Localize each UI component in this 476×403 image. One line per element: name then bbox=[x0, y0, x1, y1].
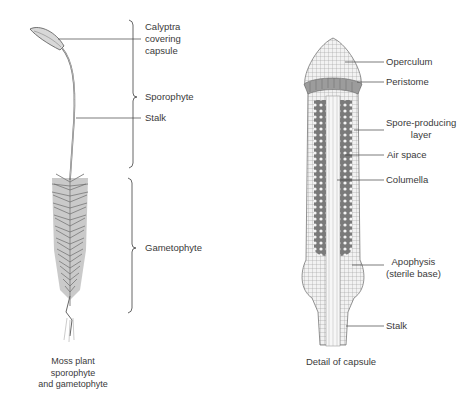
caption-line3: and gametophyte bbox=[28, 379, 118, 391]
label-calyptra-line2: covering bbox=[145, 33, 181, 45]
caption-line2: sporophyte bbox=[28, 368, 118, 380]
label-peristome: Peristome bbox=[386, 76, 429, 88]
caption-capsule: Detail of capsule bbox=[296, 356, 386, 368]
label-apophysis: Apophysis (sterile base) bbox=[386, 256, 441, 280]
label-spore-producing-layer: Spore-producing layer bbox=[386, 117, 456, 141]
label-stalk-left: Stalk bbox=[145, 112, 166, 124]
moss-plant-drawing bbox=[30, 20, 141, 342]
label-calyptra: Calyptra covering capsule bbox=[145, 21, 181, 57]
label-spore-line2: layer bbox=[386, 129, 456, 141]
caption-moss-plant: Moss plant sporophyte and gametophyte bbox=[28, 356, 118, 391]
label-calyptra-line1: Calyptra bbox=[145, 21, 181, 33]
label-operculum: Operculum bbox=[386, 56, 432, 68]
label-air-space: Air space bbox=[387, 149, 427, 161]
label-calyptra-line3: capsule bbox=[145, 45, 181, 57]
label-apophysis-line1: Apophysis bbox=[386, 256, 441, 268]
label-stalk-right: Stalk bbox=[386, 320, 407, 332]
caption-line1: Moss plant bbox=[28, 356, 118, 368]
label-gametophyte: Gametophyte bbox=[145, 242, 202, 254]
label-spore-line1: Spore-producing bbox=[386, 117, 456, 129]
label-columella: Columella bbox=[386, 174, 428, 186]
label-apophysis-line2: (sterile base) bbox=[386, 268, 441, 280]
capsule-detail-drawing bbox=[302, 38, 384, 346]
label-sporophyte: Sporophyte bbox=[145, 91, 194, 103]
